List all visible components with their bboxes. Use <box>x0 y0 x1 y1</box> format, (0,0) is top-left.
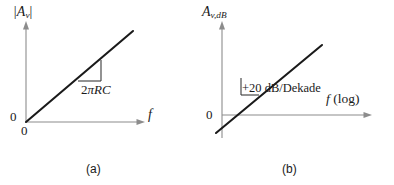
y-axis-b <box>219 21 225 138</box>
origin-label-y-a: 0 <box>10 110 17 123</box>
plot-panel-a: |Av| 2πRC 0 0 f (a) <box>0 0 197 185</box>
y-axis-label-a-main: |A <box>13 4 25 19</box>
slope-annotation-b: +20 dB/Dekade <box>242 82 321 95</box>
slope-annotation-a: 2πRC <box>81 83 111 96</box>
origin-label-x-a: 0 <box>21 124 28 137</box>
y-axis-label-a-tail: | <box>30 4 33 19</box>
slope-annotation-a-suffix: RC <box>94 82 111 97</box>
x-axis-a <box>26 119 145 125</box>
y-axis-label-a: |Av| <box>13 5 32 21</box>
response-line-a <box>26 31 133 122</box>
x-axis-b <box>222 112 372 118</box>
x-axis-label-a: f <box>148 108 152 122</box>
panel-caption-a: (a) <box>86 163 101 175</box>
panel-caption-b: (b) <box>282 163 297 175</box>
y-axis-a <box>23 21 29 122</box>
y-axis-label-b: Av,dB <box>202 5 227 21</box>
figure-container: |Av| 2πRC 0 0 f (a) <box>0 0 394 185</box>
origin-label-y-b: 0 <box>206 108 213 121</box>
x-axis-label-b: f (log) <box>326 92 359 106</box>
plot-panel-b: Av,dB +20 dB/Dekade 0 f (log) (b) <box>197 0 394 185</box>
slope-triangle-a <box>78 60 101 81</box>
y-axis-label-b-sub: v,dB <box>211 10 227 20</box>
y-axis-label-b-main: A <box>202 4 211 19</box>
x-axis-label-b-suffix: (log) <box>330 91 360 106</box>
